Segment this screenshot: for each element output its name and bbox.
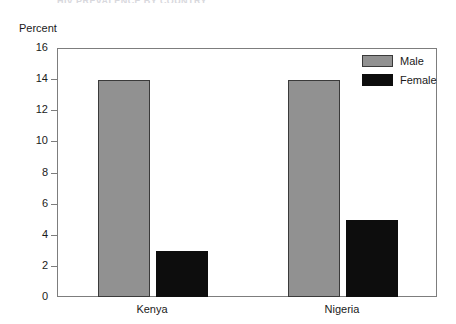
bar-nigeria-male	[288, 80, 340, 297]
y-axis-tick-label: 16	[16, 42, 48, 53]
legend-swatch-female	[362, 74, 393, 86]
y-axis-tick-label: 8	[16, 167, 48, 178]
y-axis-tick-label: 0	[16, 291, 48, 302]
bar-kenya-male	[98, 80, 150, 297]
legend-item-male: Male	[362, 52, 437, 69]
y-axis-tick-label: 4	[16, 229, 48, 240]
legend-label-female: Female	[400, 74, 437, 86]
y-axis-tick-label: 10	[16, 135, 48, 146]
y-axis-tick-label: 14	[16, 73, 48, 84]
x-axis-label-nigeria: Nigeria	[282, 303, 402, 315]
legend-label-male: Male	[400, 55, 424, 67]
legend-item-female: Female	[362, 71, 437, 88]
y-axis-tick-labels: 0246810121416	[8, 0, 48, 324]
legend-swatch-male	[362, 55, 393, 67]
y-axis-tick-label: 6	[16, 198, 48, 209]
chart-legend: Male Female	[362, 52, 437, 90]
bar-nigeria-female	[346, 220, 398, 297]
chart-title: HIV PREVALENCE BY COUNTRY	[57, 0, 207, 3]
x-axis-label-kenya: Kenya	[92, 303, 212, 315]
bar-kenya-female	[156, 251, 208, 297]
y-axis-tick-label: 12	[16, 104, 48, 115]
y-axis-tick-label: 2	[16, 260, 48, 271]
